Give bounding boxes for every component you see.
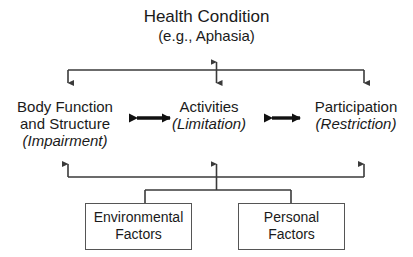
concept-body-line1: Body Function <box>2 98 128 115</box>
icf-framework-diagram: Health Condition (e.g., Aphasia) Body Fu… <box>0 0 413 257</box>
personal-factors-line1: Personal <box>239 209 344 226</box>
factors-branch <box>145 177 291 203</box>
personal-factors-line2: Factors <box>239 226 344 243</box>
concept-participation: Participation (Restriction) <box>300 98 412 132</box>
top-bracket <box>68 62 364 83</box>
concept-activities-qualifier: (Limitation) <box>154 115 264 132</box>
concept-activities-line1: Activities <box>154 98 264 115</box>
bottom-bracket <box>68 164 364 177</box>
box-personal-factors: Personal Factors <box>238 203 345 250</box>
concept-body-function-and-structure: Body Function and Structure (Impairment) <box>2 98 128 149</box>
health-condition-subtitle: (e.g., Aphasia) <box>0 28 413 45</box>
box-environmental-factors: Environmental Factors <box>85 203 192 250</box>
concept-activities: Activities (Limitation) <box>154 98 264 132</box>
environmental-factors-line2: Factors <box>86 226 191 243</box>
concept-participation-qualifier: (Restriction) <box>300 115 412 132</box>
environmental-factors-line1: Environmental <box>86 209 191 226</box>
health-condition-title: Health Condition <box>0 7 413 26</box>
concept-participation-line1: Participation <box>300 98 412 115</box>
concept-body-line2: and Structure <box>2 115 128 132</box>
concept-body-qualifier: (Impairment) <box>2 132 128 149</box>
